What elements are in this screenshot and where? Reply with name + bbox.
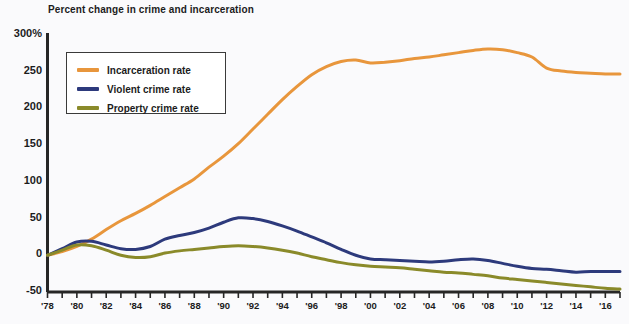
x-tick-label: '94: [269, 300, 295, 311]
x-tick-label: '06: [446, 300, 472, 311]
legend-swatch-icon: [77, 68, 99, 71]
x-tick-label: '02: [387, 300, 413, 311]
x-tick-label: '14: [563, 300, 589, 311]
y-tick-label: 250: [0, 64, 42, 76]
legend-item-label: Incarceration rate: [107, 65, 191, 76]
x-tick-label: '16: [592, 300, 618, 311]
x-tick-label: '82: [93, 300, 119, 311]
y-tick-label: 50: [0, 211, 42, 223]
series-line-violent-crime-rate: [48, 218, 621, 273]
y-tick-label: 300%: [0, 27, 42, 39]
x-tick-label: '88: [181, 300, 207, 311]
x-tick-label: '08: [475, 300, 501, 311]
legend-item: Property crime rate: [77, 101, 199, 115]
y-tick-label: 200: [0, 100, 42, 112]
legend-swatch-icon: [77, 106, 99, 109]
legend-item: Violent crime rate: [77, 82, 191, 96]
chart-legend: Incarceration rateViolent crime rateProp…: [66, 52, 226, 114]
legend-item-label: Violent crime rate: [107, 84, 191, 95]
x-tick-label: '12: [534, 300, 560, 311]
y-tick-label: 150: [0, 137, 42, 149]
series-line-property-crime-rate: [48, 245, 621, 289]
x-tick-label: '80: [64, 300, 90, 311]
legend-item: Incarceration rate: [77, 63, 191, 77]
x-tick-label: '04: [416, 300, 442, 311]
chart-container: Percent change in crime and incarceratio…: [0, 0, 629, 324]
y-tick-label: 0: [0, 247, 42, 259]
y-tick-label: 100: [0, 174, 42, 186]
x-tick-label: '98: [328, 300, 354, 311]
x-tick-label: '86: [152, 300, 178, 311]
x-tick-label: '90: [211, 300, 237, 311]
x-tick-label: '84: [123, 300, 149, 311]
x-tick-label: '78: [35, 300, 61, 311]
x-tick-label: '00: [357, 300, 383, 311]
y-tick-label: -50: [0, 284, 42, 296]
legend-item-label: Property crime rate: [107, 103, 199, 114]
x-tick-label: '96: [299, 300, 325, 311]
chart-plot-area: [0, 0, 629, 324]
legend-swatch-icon: [77, 87, 99, 90]
x-tick-label: '10: [504, 300, 530, 311]
x-tick-label: '92: [240, 300, 266, 311]
